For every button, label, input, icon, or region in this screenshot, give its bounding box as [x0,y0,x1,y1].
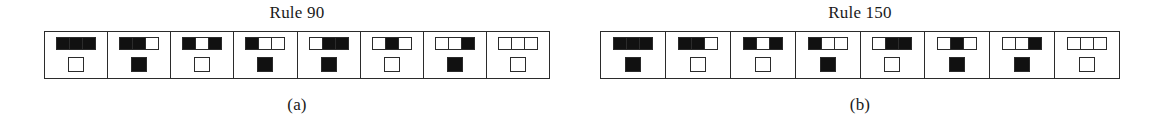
neighborhood-row [743,37,783,50]
rule-strip-a [44,31,550,79]
neighborhood-cell-off [963,37,977,50]
result-cell-on [1014,57,1030,72]
rule-cell [361,32,424,78]
result-cell-off [884,57,900,72]
neighborhood-cell-off [1002,37,1016,50]
neighborhood-cell-on [898,37,912,50]
result-cell-off [68,57,84,72]
result-cell-off [194,57,210,72]
neighborhood-cell-off [195,37,209,50]
rule-cell [234,32,297,78]
neighborhood-cell-on [82,37,96,50]
neighborhood-cell-off [1080,37,1094,50]
neighborhood-cell-off [834,37,848,50]
rule-cell [298,32,361,78]
neighborhood-row [613,37,653,50]
neighborhood-row [872,37,912,50]
neighborhood-cell-off [756,37,770,50]
neighborhood-cell-off [309,37,323,50]
neighborhood-cell-off [1015,37,1029,50]
rule-cell [171,32,234,78]
result-row [884,57,900,72]
result-cell-on [257,57,273,72]
neighborhood-cell-on [56,37,70,50]
neighborhood-cell-off [937,37,951,50]
result-cell-off [510,57,526,72]
neighborhood-cell-on [885,37,899,50]
result-row [447,57,463,72]
neighborhood-cell-on [950,37,964,50]
neighborhood-row [808,37,848,50]
result-cell-off [384,57,400,72]
neighborhood-row [372,37,412,50]
result-row [194,57,210,72]
neighborhood-row [309,37,349,50]
neighborhood-cell-off [1067,37,1081,50]
result-cell-on [625,57,641,72]
neighborhood-cell-on [245,37,259,50]
neighborhood-row [1002,37,1042,50]
result-row [1014,57,1030,72]
panel-title-rule-90: Rule 90 [44,2,550,24]
result-row [690,57,706,72]
result-cell-on [321,57,337,72]
rule-cell [601,32,666,78]
neighborhood-cell-on [743,37,757,50]
neighborhood-cell-off [821,37,835,50]
rule-cell [1055,32,1119,78]
neighborhood-cell-off [271,37,285,50]
result-cell-on [447,57,463,72]
result-cell-off [690,57,706,72]
neighborhood-cell-on [322,37,336,50]
rule-cell [731,32,796,78]
result-row [1079,57,1095,72]
neighborhood-cell-on [119,37,133,50]
result-row [257,57,273,72]
neighborhood-cell-on [69,37,83,50]
neighborhood-cell-on [1028,37,1042,50]
neighborhood-row [119,37,159,50]
result-cell-off [1079,57,1095,72]
neighborhood-cell-on [678,37,692,50]
result-row [384,57,400,72]
result-cell-on [949,57,965,72]
result-row [510,57,526,72]
rule-cell [796,32,861,78]
result-cell-on [131,57,147,72]
rule-panel-a: Rule 90 (a) [44,0,550,127]
neighborhood-cell-off [498,37,512,50]
neighborhood-cell-off [1093,37,1107,50]
neighborhood-cell-on [132,37,146,50]
neighborhood-cell-on [639,37,653,50]
panel-caption-a: (a) [44,94,550,116]
neighborhood-row [1067,37,1107,50]
rule-cell [487,32,549,78]
rule-cell [424,32,487,78]
result-cell-on [820,57,836,72]
rule-cell [45,32,108,78]
panel-caption-b: (b) [600,94,1120,116]
neighborhood-cell-on [626,37,640,50]
result-row [68,57,84,72]
neighborhood-cell-on [182,37,196,50]
rule-strip-b [600,31,1120,79]
panel-title-rule-150: Rule 150 [600,2,1120,24]
neighborhood-row [435,37,475,50]
neighborhood-cell-off [511,37,525,50]
neighborhood-cell-off [145,37,159,50]
neighborhood-cell-on [461,37,475,50]
result-row [131,57,147,72]
neighborhood-row [678,37,718,50]
neighborhood-cell-off [258,37,272,50]
neighborhood-cell-off [398,37,412,50]
neighborhood-cell-off [524,37,538,50]
neighborhood-row [937,37,977,50]
rule-panel-b: Rule 150 (b) [600,0,1120,127]
neighborhood-row [182,37,222,50]
rule-cell [925,32,990,78]
neighborhood-cell-off [372,37,386,50]
neighborhood-row [498,37,538,50]
neighborhood-cell-on [613,37,627,50]
result-row [820,57,836,72]
result-cell-off [755,57,771,72]
